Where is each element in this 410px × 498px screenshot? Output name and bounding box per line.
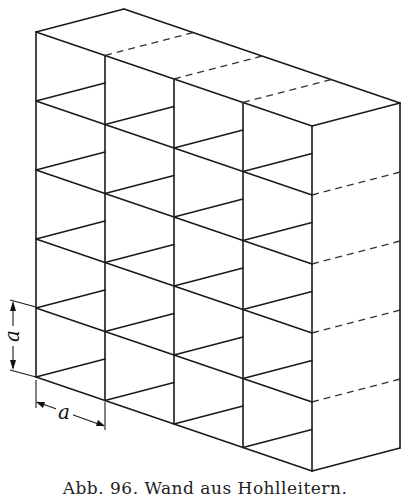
interior-shelf-depth-edge (174, 268, 243, 286)
interior-shelf-depth-edge (243, 429, 312, 447)
hidden-right-shelf (312, 172, 400, 195)
solid-edges (36, 9, 400, 471)
hidden-top-division (105, 33, 193, 56)
interior-shelf-depth-edge (243, 153, 312, 171)
interior-shelf-depth-edge (105, 175, 174, 193)
bottom-right-depth-edge (312, 448, 400, 471)
interior-shelf-depth-edge (105, 382, 174, 400)
interior-shelf-depth-edge (105, 244, 174, 262)
arrow-right-icon (96, 420, 105, 426)
hidden-top-division (243, 80, 331, 103)
hidden-right-shelf (312, 310, 400, 333)
arrow-down-icon (10, 360, 16, 370)
hidden-right-shelf (312, 379, 400, 402)
top-right-depth-edge (312, 103, 400, 126)
top-left-depth-edge (36, 9, 124, 32)
interior-shelf-depth-edge (36, 83, 105, 101)
interior-shelf-depth-edge (174, 199, 243, 217)
interior-shelf-depth-edge (36, 290, 105, 308)
interior-shelf-depth-edge (174, 337, 243, 355)
interior-shelf-depth-edge (36, 221, 105, 239)
interior-shelf-depth-edge (243, 291, 312, 309)
interior-shelf-depth-edge (174, 130, 243, 148)
hidden-top-division (174, 56, 262, 79)
interior-shelf-depth-edge (36, 152, 105, 170)
interior-shelf-depth-edge (105, 313, 174, 331)
dimension-label-horizontal: a (58, 400, 70, 424)
dimension-label-vertical: a (0, 330, 24, 342)
interior-shelf-depth-edge (36, 359, 105, 377)
interior-shelf-depth-edge (174, 406, 243, 424)
figure-caption: Abb. 96. Wand aus Hohlleitern. (0, 478, 410, 498)
arrow-up-icon (10, 301, 16, 311)
arrow-left-icon (36, 402, 45, 408)
interior-shelf-depth-edge (243, 222, 312, 240)
interior-shelf-depth-edge (105, 106, 174, 124)
interior-shelf-depth-edge (243, 360, 312, 378)
dimension-annotations: a a (0, 300, 105, 430)
hidden-right-shelf (312, 241, 400, 264)
